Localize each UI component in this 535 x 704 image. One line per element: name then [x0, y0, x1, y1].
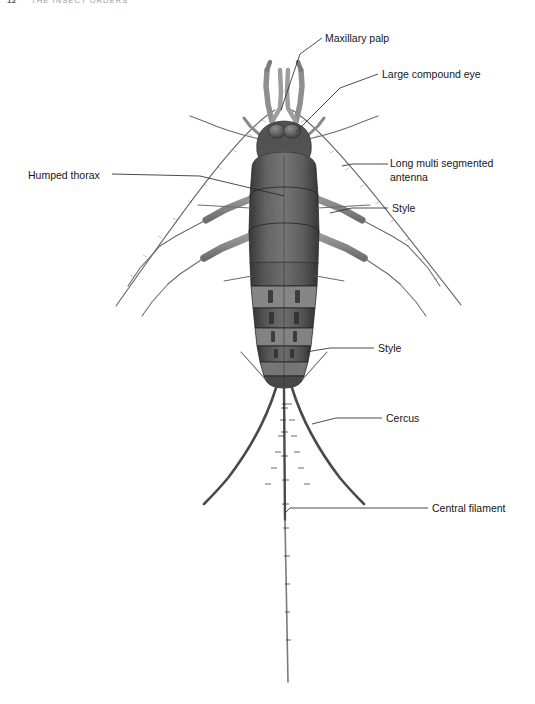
style-mid-left: [224, 276, 252, 281]
label-central-filament: Central filament: [432, 502, 506, 516]
label-cercus: Cercus: [386, 412, 419, 426]
silverfish-illustration: [0, 0, 535, 704]
central-filament-tip: [285, 520, 288, 682]
leader-compound-eye: [296, 74, 378, 132]
filament-segment-ticks: [265, 404, 310, 640]
leader-style-lower: [306, 348, 374, 352]
caudal-filaments-group: [204, 388, 364, 682]
thorax-group: [249, 152, 319, 273]
maxillary-palp-left: [266, 62, 281, 122]
labial-palp-right: [307, 118, 324, 136]
compound-eye-right: [284, 124, 301, 138]
cercus-left: [204, 388, 276, 504]
abdomen-group: [250, 262, 318, 388]
leader-cercus: [312, 418, 382, 424]
label-large-compound-eye: Large compound eye: [382, 68, 481, 82]
label-long-antenna-line1: Long multi segmented: [390, 157, 493, 171]
style-mid-right: [316, 276, 344, 281]
label-style-lower: Style: [378, 342, 401, 356]
label-maxillary-palp: Maxillary palp: [325, 32, 389, 46]
label-long-antenna-line2: antenna: [390, 171, 428, 185]
compound-eye-left: [269, 124, 286, 138]
labial-palp-left: [244, 118, 261, 136]
label-style-upper: Style: [392, 202, 415, 216]
leader-antenna: [342, 164, 388, 166]
figure-page: 12 THE INSECT ORDERS: [0, 0, 535, 704]
cercus-right: [292, 388, 364, 504]
label-humped-thorax: Humped thorax: [28, 169, 100, 183]
leader-central-filament: [286, 508, 428, 512]
